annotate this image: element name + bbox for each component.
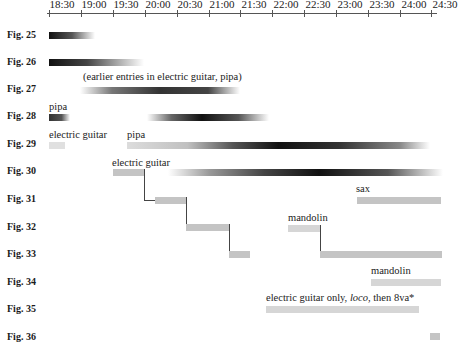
note-fig-30-electric-guitar: electric guitar [112,157,170,168]
row-label-fig-32: Fig. 32 [7,221,36,232]
axis-tick-label: 19:30 [113,0,138,10]
bar-fig-35 [266,306,419,313]
axis-tick-label: 18:30 [49,0,74,10]
row-label-fig-29: Fig. 29 [7,138,36,149]
axis-tick [145,10,146,17]
bar-fig-29-electric-guitar [49,142,65,149]
row-label-fig-34: Fig. 34 [7,276,36,287]
note-fig-32-mandolin: mandolin [288,212,328,223]
connector-line [144,169,145,200]
bar-fig-30 [168,169,443,176]
axis-tick-label: 22:00 [273,0,298,10]
bar-fig-25 [49,32,95,39]
row-label-fig-25: Fig. 25 [7,29,36,40]
row-label-fig-28: Fig. 28 [7,110,36,121]
row-label-fig-33: Fig. 33 [7,248,36,259]
axis-tick [81,10,82,17]
bar-fig-31-sax [357,197,441,204]
axis-tick [49,10,50,17]
axis-tick-label: 24:00 [401,0,426,10]
row-label-fig-27: Fig. 27 [7,83,36,94]
bar-fig-28 [147,114,269,121]
row-label-fig-30: Fig. 30 [7,165,36,176]
bar-fig-30-electric-guitar [113,169,144,176]
axis-tick-label: 24:30 [432,0,457,10]
bar-fig-32-mandolin [288,225,320,232]
note-fig-34-mandolin: mandolin [371,265,411,276]
row-label-fig-26: Fig. 26 [7,56,36,67]
connector-line [186,197,187,227]
bar-fig-34-mandolin [371,279,441,286]
axis-tick-label: 23:30 [369,0,394,10]
bar-fig-32 [186,224,229,231]
bar-fig-36 [430,333,440,340]
row-label-fig-31: Fig. 31 [7,193,36,204]
axis-tick-label: 22:30 [305,0,330,10]
axis-tick-label: 21:00 [209,0,234,10]
row-label-fig-36: Fig. 36 [7,331,36,342]
note-fig-35-italic: loco [350,292,368,303]
axis-tick-label: 19:00 [81,0,106,10]
note-fig-27: (earlier entries in electric guitar, pip… [83,71,242,82]
note-fig-28-pipa: pipa [49,101,67,112]
bar-fig-26 [49,59,144,66]
axis-tick [368,10,369,17]
bar-fig-31 [155,197,186,204]
bar-fig-28-pipa [49,114,70,121]
axis-tick [336,10,337,17]
axis-tick-label: 20:30 [177,0,202,10]
axis-tick-label: 21:30 [241,0,266,10]
axis-tick [272,10,273,17]
row-label-fig-35: Fig. 35 [7,303,36,314]
axis-tick [431,10,432,17]
note-fig-35: electric guitar only, loco, then 8va* [266,292,414,303]
note-fig-29-pipa: pipa [127,129,145,140]
connector-line [144,200,155,201]
bar-fig-29-pipa [127,142,430,149]
note-fig-35-suffix: , then 8va* [368,292,414,303]
axis-tick [304,10,305,17]
axis-tick [209,10,210,17]
axis-tick [177,10,178,17]
note-fig-29-electric-guitar: electric guitar [49,129,107,140]
axis-tick [240,10,241,17]
bar-fig-27 [80,87,240,94]
axis-line [47,13,437,14]
bar-fig-33-continuation [320,251,442,258]
axis-tick [113,10,114,17]
axis-tick-label: 23:00 [337,0,362,10]
bar-fig-33 [229,251,250,258]
note-fig-31-sax: sax [356,183,370,194]
note-fig-35-prefix: electric guitar only, [266,292,350,303]
axis-tick-label: 20:00 [145,0,170,10]
axis-tick [400,10,401,17]
